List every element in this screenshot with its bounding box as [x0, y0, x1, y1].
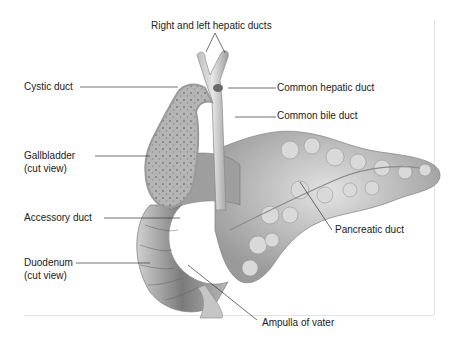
label-cystic-duct: Cystic duct [24, 81, 73, 93]
label-gallbladder-cut-view: (cut view) [24, 163, 67, 175]
anatomy-illustration [0, 0, 450, 347]
diagram-canvas: Right and left hepatic ducts Cystic duct… [0, 0, 450, 347]
label-common-bile-duct: Common bile duct [277, 110, 358, 122]
pancreas [215, 131, 440, 283]
label-ampulla-of-vater: Ampulla of vater [262, 317, 334, 329]
label-duodenum-cut-view: (cut view) [24, 270, 67, 282]
label-accessory-duct: Accessory duct [24, 212, 92, 224]
label-gallbladder: Gallbladder [24, 150, 75, 162]
label-duodenum: Duodenum [24, 257, 73, 269]
label-hepatic-ducts: Right and left hepatic ducts [151, 20, 272, 32]
label-pancreatic-duct: Pancreatic duct [335, 224, 404, 236]
label-common-hepatic-duct: Common hepatic duct [277, 82, 374, 94]
